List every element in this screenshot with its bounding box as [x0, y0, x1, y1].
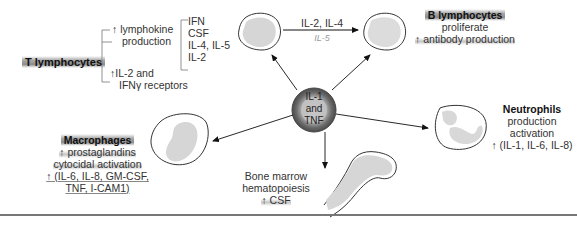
t-to-b-label: IL-2, IL-4: [288, 17, 356, 29]
up-arrow-icon: ↑: [112, 23, 117, 35]
neutrophils-line3: ↑ (IL-1, IL-6, IL-8): [486, 139, 577, 151]
center-line-1: IL-1: [297, 91, 331, 103]
bone-marrow-line2: hematopoiesis: [236, 182, 316, 194]
cytokine-item: IFN: [188, 15, 230, 27]
b-lymphocytes-title: B lymphocytes: [425, 9, 506, 21]
t-branch1-line2: production: [112, 35, 173, 47]
to-t-lymphocyte-arrow: [272, 55, 297, 90]
t-to-b-handwritten: IL-5: [288, 33, 356, 43]
b-lymphocytes-block: B lymphocytes proliferate ↑ antibody pro…: [405, 9, 525, 45]
t-branch-lymphokine: ↑ lymphokine production: [112, 23, 173, 47]
neutrophils-line1: production: [486, 115, 577, 127]
t-lymphocytes-title: T lymphocytes: [22, 56, 105, 68]
center-label: IL-1 and TNF: [297, 91, 331, 127]
t-lymphocyte-cell-icon: [239, 13, 281, 50]
center-line-3: TNF: [297, 115, 331, 127]
t-bracket-cytokines: [181, 20, 188, 70]
t-branch-receptors: ↑IL-2 and IFNγ receptors: [110, 67, 188, 91]
b-line2: ↑ antibody production: [415, 33, 515, 45]
to-b-lymphocyte-arrow: [332, 55, 370, 90]
macrophages-line3: ↑ (IL-6, IL-8, GM-CSF,: [40, 170, 155, 182]
neutrophils-block: Neutrophils production activation ↑ (IL-…: [486, 103, 577, 151]
bone-marrow-block: Bone marrow hematopoiesis ↑ CSF: [236, 170, 316, 206]
cytokine-item: CSF: [188, 27, 230, 39]
cytokine-item: IL-4, IL-5: [188, 39, 230, 51]
b-line1: proliferate: [405, 21, 525, 33]
t-branch2-line2: IFNγ receptors: [110, 79, 188, 91]
bone-marrow-icon: [324, 152, 396, 217]
to-macrophage-arrow: [213, 115, 293, 141]
t-cytokine-list: IFN CSF IL-4, IL-5 IL-2: [188, 15, 230, 63]
t-branch2-line1: IL-2 and: [115, 67, 154, 79]
to-neutrophil-arrow: [336, 114, 428, 128]
t-branch1-line1: lymphokine: [120, 23, 173, 35]
neutrophils-line2: activation: [486, 127, 577, 139]
macrophages-title: Macrophages: [61, 134, 135, 146]
cytokine-item: IL-2: [188, 51, 230, 63]
macrophages-line2: cytocidal activation: [53, 158, 141, 170]
b-lymphocyte-cell-icon: [364, 13, 406, 50]
bone-marrow-line1: Bone marrow: [236, 170, 316, 182]
macrophages-block: Macrophages ↑ prostaglandins cytocidal a…: [40, 134, 155, 194]
macrophage-cell-icon: [151, 114, 208, 165]
bone-marrow-line3: ↑ CSF: [261, 194, 290, 206]
macrophages-line1: ↑ prostaglandins: [59, 146, 135, 158]
macrophages-line4: TNF, I-CAM1): [40, 182, 155, 194]
bottom-divider: [0, 214, 577, 216]
center-line-2: and: [297, 103, 331, 115]
neutrophil-cell-icon: [435, 105, 486, 149]
neutrophils-title: Neutrophils: [486, 103, 577, 115]
